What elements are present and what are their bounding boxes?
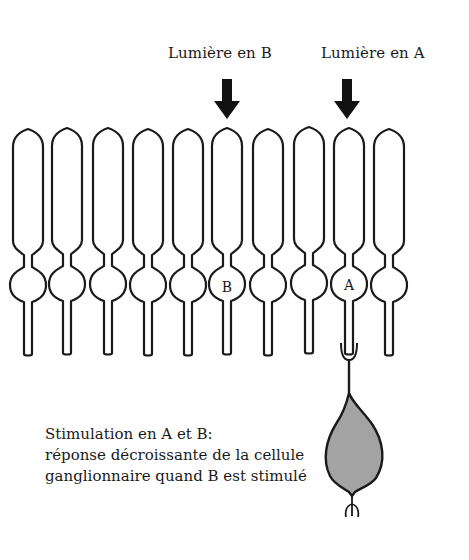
receptor-a-letter: A: [343, 277, 355, 293]
ganglion-cell: [326, 360, 383, 517]
receptor-4: [130, 129, 166, 356]
receptor-1: [10, 129, 46, 356]
receptor-b: [209, 128, 245, 355]
receptor-8: [291, 127, 327, 354]
receptor-b-letter: B: [222, 279, 232, 295]
caption-line-2: réponse décroissante de la cellule: [45, 445, 307, 466]
receptor-2: [49, 128, 85, 355]
caption: Stimulation en A et B: réponse décroissa…: [45, 424, 307, 487]
receptor-7: [250, 129, 286, 356]
receptor-row: [10, 127, 407, 356]
caption-line-3: ganglionnaire quand B est stimulé: [45, 466, 307, 487]
caption-line-1: Stimulation en A et B:: [45, 424, 307, 445]
synapse-fork: [341, 343, 357, 360]
arrow-down-icon-a: [334, 79, 360, 119]
receptor-a: [331, 128, 367, 355]
receptor-10: [371, 129, 407, 356]
receptor-5: [170, 129, 206, 356]
receptor-3: [90, 128, 126, 355]
arrow-down-icon-b: [214, 79, 240, 119]
